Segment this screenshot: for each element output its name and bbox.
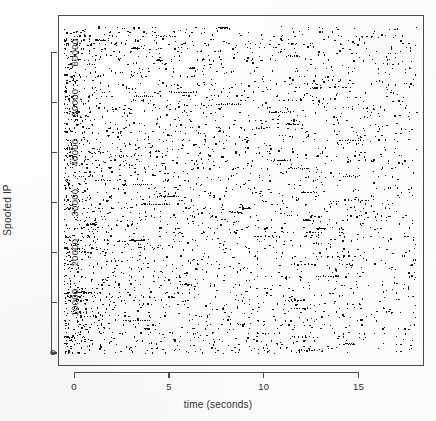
y-axis-tick-label: 60000	[69, 38, 80, 66]
y-axis-title: Spoofed IP	[2, 160, 13, 260]
x-axis-line	[74, 372, 358, 373]
y-axis-tick-label: 0	[47, 350, 58, 356]
x-axis-tick-label: 0	[71, 381, 77, 392]
y-axis-tick-label: 40000	[69, 138, 80, 166]
x-axis-tick-label: 15	[353, 381, 364, 392]
x-axis-tick-label: 5	[166, 381, 172, 392]
y-axis-tick-label: 10000	[69, 288, 80, 316]
x-axis-tick-label: 10	[258, 381, 269, 392]
y-axis-tick-label: 20000	[69, 238, 80, 266]
scatter-plot-figure: 051015 0100002000030000400005000060000 t…	[0, 0, 436, 421]
plot-frame-box	[58, 15, 424, 366]
x-axis-title: time (seconds)	[0, 399, 436, 410]
y-axis-line	[51, 53, 52, 353]
y-axis-tick-label: 50000	[69, 88, 80, 116]
y-axis-tick-label: 30000	[69, 188, 80, 216]
